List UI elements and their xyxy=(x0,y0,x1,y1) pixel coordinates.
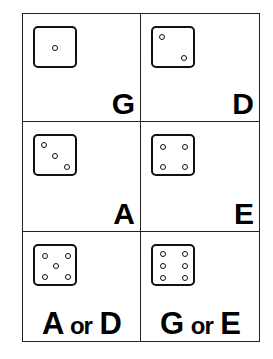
die-two-icon xyxy=(151,26,195,68)
dice-chord-chart: G D A E A o xyxy=(22,13,260,342)
cell-die-2: D xyxy=(141,14,259,122)
cell-label: A or D xyxy=(29,308,134,339)
die-one-icon xyxy=(33,26,77,68)
die-three-icon xyxy=(33,134,77,176)
cell-die-6: G or E xyxy=(141,232,259,341)
cell-label: G or E xyxy=(147,308,253,339)
cell-die-4: E xyxy=(141,122,259,232)
die-six-icon xyxy=(151,244,195,286)
cell-die-5: A or D xyxy=(23,232,141,341)
cell-label: G xyxy=(112,89,134,119)
cell-label: A xyxy=(113,199,134,229)
cell-die-3: A xyxy=(23,122,141,232)
cell-label: E xyxy=(234,199,253,229)
die-four-icon xyxy=(151,134,195,176)
cell-label: D xyxy=(232,89,253,119)
cell-die-1: G xyxy=(23,14,141,122)
die-five-icon xyxy=(33,244,77,286)
